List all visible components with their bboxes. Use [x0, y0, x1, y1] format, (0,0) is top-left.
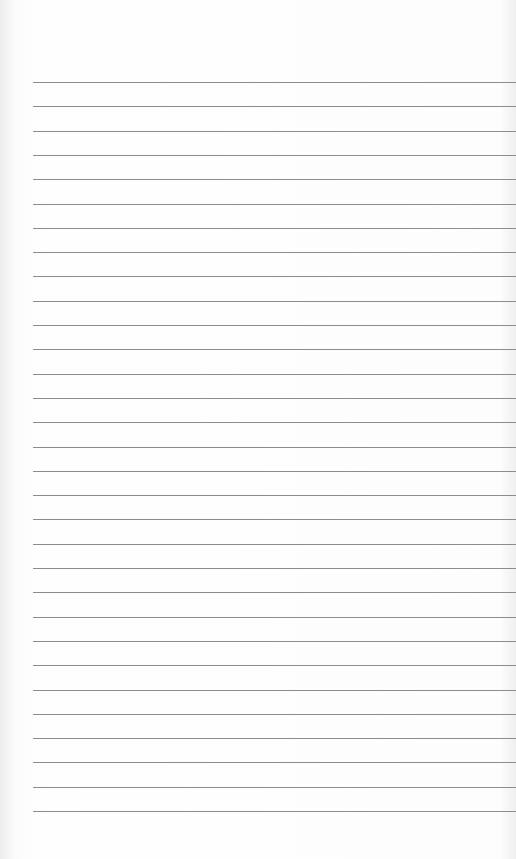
ruled-line — [33, 276, 516, 277]
ruled-line — [33, 447, 516, 448]
ruled-line — [33, 665, 516, 666]
ruled-line — [33, 519, 516, 520]
ruled-line — [33, 690, 516, 691]
ruled-line — [33, 349, 516, 350]
ruled-line — [33, 592, 516, 593]
ruled-line — [33, 787, 516, 788]
ruled-line — [33, 544, 516, 545]
ruled-line — [33, 252, 516, 253]
ruled-line — [33, 568, 516, 569]
ruled-line — [33, 811, 516, 812]
ruled-line — [33, 131, 516, 132]
ruled-line — [33, 738, 516, 739]
lined-paper-sheet — [0, 0, 516, 859]
ruled-line — [33, 82, 516, 83]
ruled-line — [33, 617, 516, 618]
ruled-line — [33, 325, 516, 326]
ruled-line — [33, 155, 516, 156]
ruled-line — [33, 106, 516, 107]
ruled-line — [33, 204, 516, 205]
ruled-line — [33, 495, 516, 496]
ruled-line — [33, 422, 516, 423]
ruled-line — [33, 762, 516, 763]
ruled-line — [33, 301, 516, 302]
ruled-line — [33, 641, 516, 642]
ruled-line — [33, 374, 516, 375]
ruled-line — [33, 228, 516, 229]
ruled-line — [33, 471, 516, 472]
ruled-line — [33, 714, 516, 715]
ruled-line — [33, 398, 516, 399]
ruled-line — [33, 179, 516, 180]
